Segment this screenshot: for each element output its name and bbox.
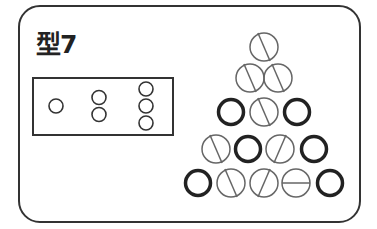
legend-ball-icon (139, 116, 153, 130)
crossed-ball-icon (236, 64, 264, 92)
crossed-ball-icon (250, 33, 278, 61)
crossed-ball-icon (250, 169, 278, 197)
crossed-ball-icon (202, 135, 230, 163)
crossed-ball-icon (250, 98, 278, 126)
ball-triangle (186, 33, 343, 197)
crossed-ball-icon (266, 135, 294, 163)
legend-circles (49, 82, 153, 130)
diagram-canvas (0, 0, 377, 229)
legend-ball-icon (92, 108, 106, 122)
legend-ball-icon (139, 99, 153, 113)
bold-ball-icon (318, 171, 343, 196)
bold-ball-icon (285, 100, 310, 125)
bold-ball-icon (219, 100, 244, 125)
crossed-ball-icon (217, 169, 245, 197)
crossed-ball-icon (264, 64, 292, 92)
legend-ball-icon (139, 82, 153, 96)
legend-ball-icon (49, 99, 63, 113)
bold-ball-icon (302, 137, 327, 162)
bold-ball-icon (236, 137, 261, 162)
legend-ball-icon (92, 91, 106, 105)
bold-ball-icon (186, 171, 211, 196)
crossed-ball-icon (282, 169, 310, 197)
